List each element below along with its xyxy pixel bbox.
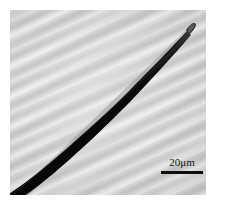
scale-bar-label: 20μm: [158, 156, 206, 168]
scale-bar-line: [161, 171, 203, 174]
scale-bar: 20μm: [158, 156, 206, 174]
micrograph-image-panel: 20μm: [10, 10, 206, 195]
micrograph-figure: 20μm: [0, 0, 226, 201]
